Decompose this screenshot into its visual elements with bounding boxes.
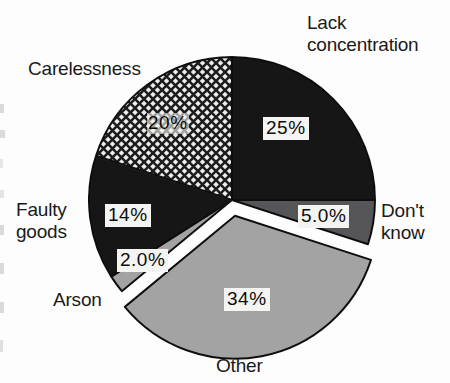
slice-label-other: Other (216, 355, 263, 377)
slice-value-other: 34% (224, 288, 270, 311)
pie-chart-figure: Lack concentration Carelessness Faulty g… (0, 0, 450, 383)
slice-label-lack-concentration: Lack concentration (307, 12, 418, 56)
slice-value-arson: 2.0% (117, 249, 168, 272)
slice-value-lack-concentration: 25% (263, 117, 309, 140)
slice-value-dont-know: 5.0% (298, 205, 349, 228)
slice-value-faulty-goods: 14% (105, 204, 151, 227)
slice-label-dont-know: Don't know (381, 200, 425, 244)
slice-label-faulty-goods: Faulty goods (16, 199, 67, 243)
slice-label-arson: Arson (53, 289, 102, 311)
slice-value-carelessness: 20% (147, 113, 189, 134)
slice-label-carelessness: Carelessness (28, 58, 141, 80)
